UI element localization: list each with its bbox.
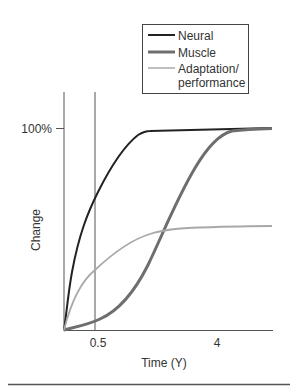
x-tick-label-4: 4 (214, 336, 221, 350)
legend: Neural Muscle Adaptation/ performance (143, 25, 249, 94)
legend-label-neural: Neural (178, 29, 213, 43)
x-axis-label: Time (Y) (141, 356, 187, 370)
legend-label-adaptation-line2: performance (178, 76, 246, 90)
chart: Neural Muscle Adaptation/ performance 10… (0, 0, 290, 389)
y-tick-label-100: 100% (21, 122, 52, 136)
x-tick-label-0-5: 0.5 (90, 336, 107, 350)
legend-label-muscle: Muscle (178, 46, 216, 60)
y-axis-label: Change (29, 209, 43, 251)
legend-label-adaptation-line1: Adaptation/ (178, 62, 239, 76)
